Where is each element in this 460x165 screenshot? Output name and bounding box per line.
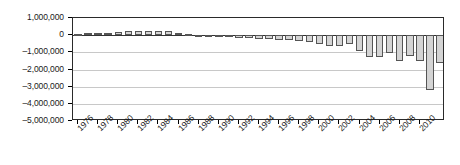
bar bbox=[175, 33, 182, 36]
y-tick-label: –1,000,000 bbox=[22, 46, 64, 56]
bar bbox=[255, 35, 262, 39]
x-tick-mark bbox=[258, 120, 259, 124]
bar bbox=[104, 33, 111, 35]
y-tick-mark bbox=[68, 69, 72, 70]
bar bbox=[356, 35, 363, 51]
bar bbox=[396, 35, 403, 60]
y-tick-label: –3,000,000 bbox=[22, 81, 64, 91]
bar bbox=[416, 35, 423, 61]
bar bbox=[115, 32, 122, 36]
x-tick-mark bbox=[178, 120, 179, 124]
bar bbox=[265, 35, 272, 39]
bar bbox=[235, 35, 242, 38]
y-tick-mark bbox=[68, 17, 72, 18]
bar bbox=[185, 34, 192, 36]
bar bbox=[155, 31, 162, 35]
bar bbox=[245, 35, 252, 38]
bar bbox=[195, 35, 202, 37]
bar bbox=[84, 33, 91, 35]
x-tick-mark bbox=[137, 120, 138, 124]
gridline bbox=[73, 104, 443, 105]
bar bbox=[205, 35, 212, 37]
gridline bbox=[73, 87, 443, 88]
bar bbox=[225, 35, 232, 37]
bar bbox=[275, 35, 282, 39]
y-tick-label: –2,000,000 bbox=[22, 64, 64, 74]
plot-area bbox=[72, 17, 444, 120]
y-axis: 1,000,0000–1,000,000–2,000,000–3,000,000… bbox=[0, 0, 68, 165]
chart-container: 1,000,0000–1,000,000–2,000,000–3,000,000… bbox=[0, 0, 460, 165]
bar bbox=[215, 35, 222, 37]
bar bbox=[336, 35, 343, 46]
x-tick-mark bbox=[379, 120, 380, 124]
bar bbox=[145, 31, 152, 35]
y-tick-label: –4,000,000 bbox=[22, 98, 64, 108]
bar bbox=[426, 35, 433, 89]
x-tick-mark bbox=[298, 120, 299, 124]
x-tick-mark bbox=[278, 120, 279, 124]
gridline bbox=[73, 70, 443, 71]
x-tick-mark bbox=[198, 120, 199, 124]
bar bbox=[74, 34, 81, 36]
x-tick-mark bbox=[97, 120, 98, 124]
bar bbox=[295, 35, 302, 41]
bar bbox=[316, 35, 323, 43]
x-tick-mark bbox=[419, 120, 420, 124]
y-tick-mark bbox=[68, 86, 72, 87]
x-tick-mark bbox=[157, 120, 158, 124]
x-tick-mark bbox=[338, 120, 339, 124]
y-tick-mark bbox=[68, 103, 72, 104]
x-tick-mark bbox=[77, 120, 78, 124]
bar bbox=[326, 35, 333, 46]
bar bbox=[386, 35, 393, 53]
bar bbox=[135, 31, 142, 35]
bar bbox=[376, 35, 383, 57]
x-tick-mark bbox=[318, 120, 319, 124]
y-tick-mark bbox=[68, 120, 72, 121]
bar bbox=[285, 35, 292, 40]
x-tick-mark bbox=[399, 120, 400, 124]
bar bbox=[436, 35, 443, 63]
x-tick-mark bbox=[238, 120, 239, 124]
bar bbox=[94, 33, 101, 35]
y-tick-mark bbox=[68, 51, 72, 52]
bar bbox=[165, 31, 172, 35]
x-tick-mark bbox=[117, 120, 118, 124]
y-tick-label: 0 bbox=[59, 29, 64, 39]
bar bbox=[306, 35, 313, 42]
y-tick-mark bbox=[68, 34, 72, 35]
x-tick-mark bbox=[218, 120, 219, 124]
bar bbox=[346, 35, 353, 44]
x-tick-mark bbox=[359, 120, 360, 124]
y-tick-label: –5,000,000 bbox=[22, 115, 64, 125]
bar bbox=[125, 31, 132, 35]
bar bbox=[366, 35, 373, 57]
bar bbox=[406, 35, 413, 56]
y-tick-label: 1,000,000 bbox=[27, 12, 64, 22]
